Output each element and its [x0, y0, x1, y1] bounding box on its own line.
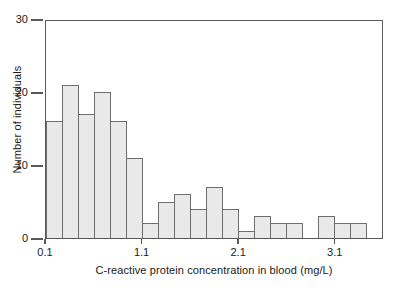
y-tick-mark: [31, 238, 43, 240]
histogram-bar: [286, 223, 303, 238]
histogram-bar: [238, 231, 255, 238]
histogram-bar: [46, 121, 63, 238]
x-tick-mark: [334, 239, 336, 244]
y-tick-label: 20: [0, 87, 28, 98]
histogram-bar: [94, 92, 111, 238]
histogram-bar: [318, 216, 335, 238]
histogram-bar: [206, 187, 223, 238]
histogram-bar: [158, 202, 175, 239]
histogram-bar: [350, 223, 367, 238]
bar-series: [46, 19, 382, 238]
plot-area: [45, 20, 383, 239]
histogram-bar: [254, 216, 271, 238]
histogram-bar: [270, 223, 287, 238]
x-tick-mark: [44, 239, 46, 244]
y-tick-mark: [31, 19, 43, 21]
y-tick-mark: [31, 92, 43, 94]
histogram-bar: [126, 158, 143, 238]
x-tick-mark: [141, 239, 143, 244]
x-axis-title: C-reactive protein concentration in bloo…: [45, 264, 383, 276]
y-tick-label: 10: [0, 160, 28, 171]
y-axis-title: Number of individuals: [8, 0, 26, 239]
y-tick-label: 0: [0, 233, 28, 244]
histogram-bar: [174, 194, 191, 238]
x-tick-label: 2.1: [218, 246, 258, 258]
histogram-figure: Number of individuals 0102030 0.11.12.13…: [0, 0, 401, 291]
histogram-bar: [334, 223, 351, 238]
histogram-bar: [78, 114, 95, 238]
x-tick-label: 1.1: [122, 246, 162, 258]
histogram-bar: [142, 223, 159, 238]
x-tick-mark: [237, 239, 239, 244]
x-tick-label: 0.1: [25, 246, 65, 258]
y-tick-label: 30: [0, 14, 28, 25]
histogram-bar: [110, 121, 127, 238]
x-tick-label: 3.1: [315, 246, 355, 258]
histogram-bar: [190, 209, 207, 238]
histogram-bar: [62, 85, 79, 238]
histogram-bar: [222, 209, 239, 238]
y-tick-mark: [31, 165, 43, 167]
